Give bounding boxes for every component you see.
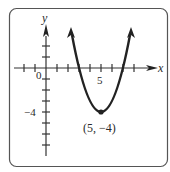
parabola-graph: y x 0 5 −4 (5, −4) (0, 0, 170, 172)
y-axis-label: y (41, 11, 48, 25)
y-tick-label-neg4: −4 (24, 106, 36, 118)
x-axis-label: x (157, 61, 164, 75)
vertex-point (98, 109, 103, 114)
vertex-label: (5, −4) (83, 121, 116, 135)
graph-frame (10, 9, 168, 167)
y-axis-arrow-icon (43, 24, 49, 37)
curve-left-arrow-icon (67, 27, 75, 38)
origin-label: 0 (36, 69, 42, 81)
x-tick-label-5: 5 (97, 74, 103, 86)
curve-right-arrow-icon (127, 27, 135, 38)
y-axis (42, 24, 50, 156)
